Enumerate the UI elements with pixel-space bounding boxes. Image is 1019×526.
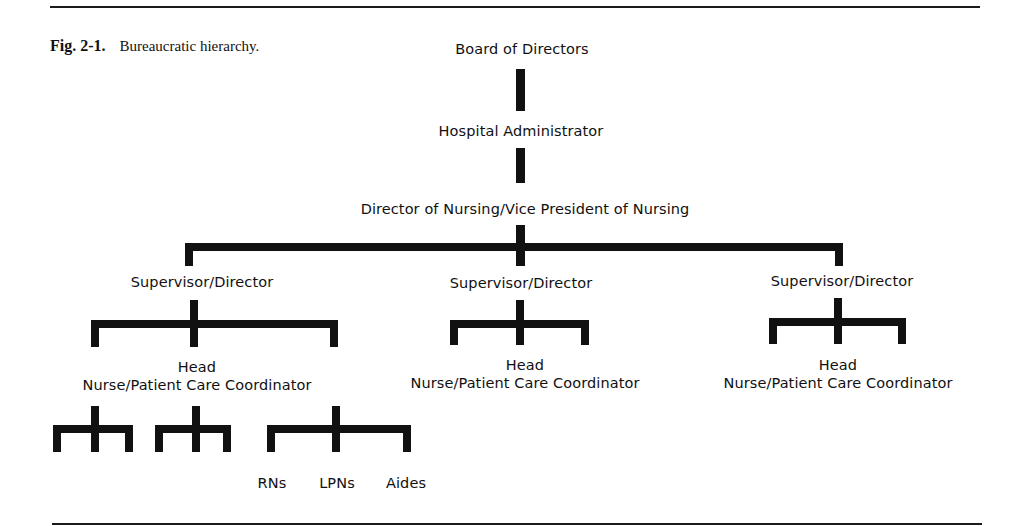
head-nurse-1-line1: Head	[82, 358, 311, 376]
head-nurse-1-line2: Nurse/Patient Care Coordinator	[82, 376, 311, 394]
node-supervisor-1: Supervisor/Director	[131, 273, 274, 291]
node-staff-lpns: LPNs	[319, 474, 355, 492]
org-chart-connectors	[0, 0, 1019, 526]
node-director-of-nursing: Director of Nursing/Vice President of Nu…	[361, 200, 690, 218]
node-head-nurse-3: Head Nurse/Patient Care Coordinator	[723, 356, 952, 392]
head-nurse-3-line2: Nurse/Patient Care Coordinator	[723, 374, 952, 392]
node-board-of-directors: Board of Directors	[455, 40, 588, 58]
head-nurse-2-line2: Nurse/Patient Care Coordinator	[410, 374, 639, 392]
head-nurse-3-line1: Head	[723, 356, 952, 374]
node-staff-rns: RNs	[258, 474, 287, 492]
connector-admin-director	[516, 148, 525, 183]
node-head-nurse-2: Head Nurse/Patient Care Coordinator	[410, 356, 639, 392]
node-supervisor-3: Supervisor/Director	[771, 272, 914, 290]
node-hospital-administrator: Hospital Administrator	[439, 122, 604, 140]
node-supervisor-2: Supervisor/Director	[450, 274, 593, 292]
connector-board-admin	[516, 69, 525, 111]
head-nurse-2-line1: Head	[410, 356, 639, 374]
connector-sup2-bar	[450, 320, 589, 328]
node-staff-aides: Aides	[386, 474, 426, 492]
connector-sup3-bar	[769, 318, 906, 326]
connector-sup1-bar	[91, 320, 338, 328]
node-head-nurse-1: Head Nurse/Patient Care Coordinator	[82, 358, 311, 394]
connector-supervisors-bar	[185, 243, 843, 251]
